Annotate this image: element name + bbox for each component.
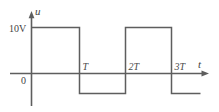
x-axis-arrowhead — [202, 71, 210, 77]
origin-label: 0 — [21, 75, 26, 86]
waveform-figure: u t 10V 0 T 2T 3T — [0, 0, 219, 112]
x-tick-label-3t: 3T — [174, 61, 187, 72]
x-tick-label-t: T — [83, 61, 90, 72]
y-axis-arrowhead — [29, 11, 35, 18]
y-value-label-10v: 10V — [9, 23, 27, 34]
x-axis-label: t — [198, 58, 202, 70]
y-axis-label: u — [35, 5, 41, 17]
x-tick-label-2t: 2T — [129, 61, 141, 72]
y-axis-group — [29, 11, 35, 106]
square-wave-plot: u t 10V 0 T 2T 3T — [0, 0, 219, 112]
